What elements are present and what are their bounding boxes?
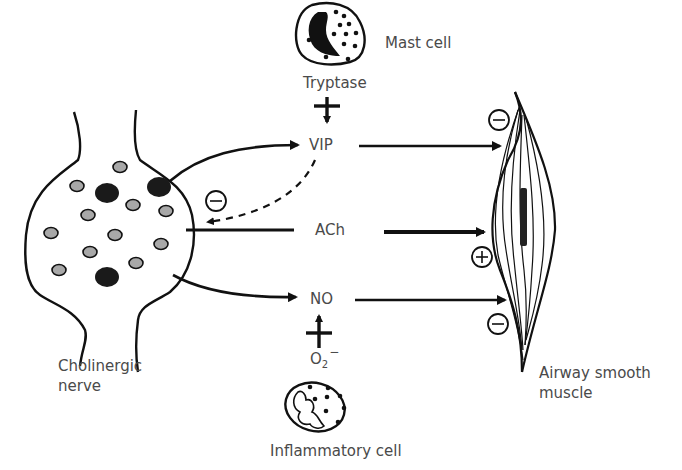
tryptase-label: Tryptase bbox=[303, 74, 367, 92]
tryptase-inhibition-arrow bbox=[314, 97, 340, 122]
superoxide-base: O bbox=[310, 350, 322, 368]
inflammatory-cell-icon bbox=[280, 376, 350, 438]
vip-label: VIP bbox=[309, 136, 333, 154]
vip-effect-sign bbox=[489, 110, 509, 130]
superoxide-subscript: 2 bbox=[322, 359, 328, 370]
mast-cell-label: Mast cell bbox=[385, 34, 451, 52]
superoxide-superscript: − bbox=[329, 345, 339, 359]
arrow-nerve-to-vip bbox=[170, 145, 298, 181]
superoxide-label: O2− bbox=[310, 350, 338, 370]
superoxide-inhibition-arrow bbox=[306, 316, 332, 348]
ach-label: ACh bbox=[315, 221, 345, 239]
no-effect-sign bbox=[488, 314, 508, 334]
cholinergic-label-line1: Cholinergic bbox=[58, 357, 142, 375]
vip-feedback-sign bbox=[206, 191, 226, 211]
inflammatory-cell-label: Inflammatory cell bbox=[270, 442, 402, 460]
ach-effect-sign bbox=[472, 247, 492, 267]
cholinergic-label-line2: nerve bbox=[58, 377, 101, 395]
airway-label-line1: Airway smooth bbox=[539, 364, 651, 382]
arrow-vip-feedback-dashed bbox=[208, 160, 315, 222]
cholinergic-nerve-terminal bbox=[25, 110, 194, 372]
dark-vesicles bbox=[95, 177, 171, 287]
mast-cell-icon bbox=[296, 3, 365, 64]
airway-label-line2: muscle bbox=[539, 384, 593, 402]
arrow-nerve-to-no bbox=[173, 275, 296, 297]
no-label: NO bbox=[310, 290, 333, 308]
